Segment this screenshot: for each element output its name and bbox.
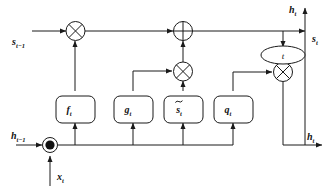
lstm-cell-diagram: st−1 st ht ht−1 ht xt ft gt <box>0 0 330 196</box>
label-hidden-out-top: ht <box>289 4 297 17</box>
label-state-in: st−1 <box>11 36 25 49</box>
candidate-state-box <box>164 96 203 123</box>
mult-forget-node <box>66 22 85 41</box>
label-hidden-out-bottom: ht <box>307 131 315 144</box>
forget-gate-box <box>56 96 95 123</box>
label-hidden-in: ht−1 <box>11 130 26 143</box>
input-gate-box <box>114 96 153 123</box>
add-state-node <box>174 22 193 41</box>
wire-mult-to-hidden-bus <box>283 82 305 145</box>
mult-input-node <box>174 62 193 81</box>
label-state-out: st <box>311 33 318 46</box>
mult-output-node <box>274 63 293 82</box>
output-gate-box <box>214 96 253 123</box>
wire-gate-g-to-mult <box>133 71 172 91</box>
label-input-x: xt <box>56 171 64 184</box>
input-junction-node <box>43 138 58 153</box>
wire-gate-q-to-mult <box>233 72 272 91</box>
